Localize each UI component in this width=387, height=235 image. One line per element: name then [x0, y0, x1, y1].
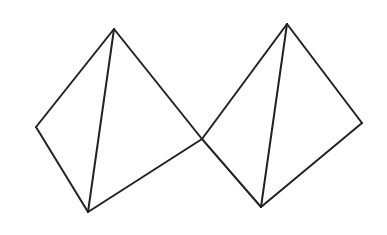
edge-right-top [287, 24, 362, 123]
left-tetrahedron [36, 29, 202, 212]
edge-bottom-right [88, 139, 202, 212]
right-tetrahedron [202, 24, 362, 207]
edge-top-left [202, 24, 287, 139]
edge-right-top [114, 29, 202, 139]
shapes-group [36, 24, 362, 212]
two-tetrahedra-diagram [0, 0, 387, 235]
edge-left-bottom [202, 139, 261, 207]
edge-top-bottom [261, 24, 287, 207]
edge-bottom-right [261, 123, 362, 207]
edge-left-bottom [36, 127, 88, 212]
